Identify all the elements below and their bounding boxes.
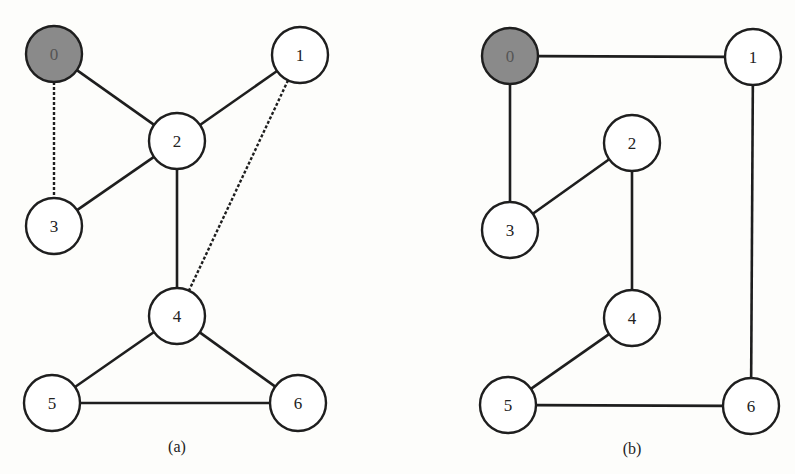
node-label: 1 bbox=[296, 46, 305, 65]
node-label: 4 bbox=[173, 307, 182, 326]
node-label: 2 bbox=[628, 134, 637, 153]
node-1: 1 bbox=[272, 27, 328, 83]
node-4: 4 bbox=[604, 290, 660, 346]
edge-2-3 bbox=[77, 157, 154, 210]
node-3: 3 bbox=[482, 202, 538, 258]
edge-1-2 bbox=[200, 71, 277, 125]
edge-1-4 bbox=[189, 80, 288, 290]
panel-b: 0123456 (b) bbox=[480, 28, 781, 458]
edge-2-3 bbox=[533, 159, 609, 213]
node-5: 5 bbox=[24, 375, 80, 431]
node-label: 3 bbox=[50, 217, 59, 236]
node-label: 4 bbox=[628, 309, 637, 328]
panel-a: 0123456 (a) bbox=[24, 26, 328, 456]
edge-4-5 bbox=[75, 332, 154, 387]
node-2: 2 bbox=[604, 115, 660, 171]
node-2: 2 bbox=[149, 113, 205, 169]
graph-figure: 0123456 (a) 0123456 (b) bbox=[0, 0, 795, 474]
node-label: 5 bbox=[504, 396, 513, 415]
edge-5-6 bbox=[536, 405, 723, 406]
node-0: 0 bbox=[482, 28, 538, 84]
node-0: 0 bbox=[26, 26, 82, 82]
node-4: 4 bbox=[149, 288, 205, 344]
node-6: 6 bbox=[723, 378, 779, 434]
edge-0-1 bbox=[538, 56, 725, 57]
node-label: 2 bbox=[173, 132, 182, 151]
node-label: 0 bbox=[506, 47, 515, 66]
node-6: 6 bbox=[270, 375, 326, 431]
node-3: 3 bbox=[26, 198, 82, 254]
node-label: 6 bbox=[294, 394, 303, 413]
node-label: 1 bbox=[749, 48, 758, 67]
node-label: 6 bbox=[747, 397, 756, 416]
panel-b-edges bbox=[510, 56, 753, 406]
node-label: 3 bbox=[506, 221, 515, 240]
panel-a-caption: (a) bbox=[168, 438, 186, 456]
node-5: 5 bbox=[480, 377, 536, 433]
node-1: 1 bbox=[725, 29, 781, 85]
node-label: 0 bbox=[50, 45, 59, 64]
panel-b-caption: (b) bbox=[623, 440, 642, 458]
edge-4-5 bbox=[531, 334, 609, 389]
node-label: 5 bbox=[48, 394, 57, 413]
panel-b-nodes: 0123456 bbox=[480, 28, 781, 434]
edge-4-6 bbox=[200, 332, 276, 386]
edge-0-2 bbox=[77, 70, 154, 125]
edge-1-6 bbox=[751, 85, 753, 378]
